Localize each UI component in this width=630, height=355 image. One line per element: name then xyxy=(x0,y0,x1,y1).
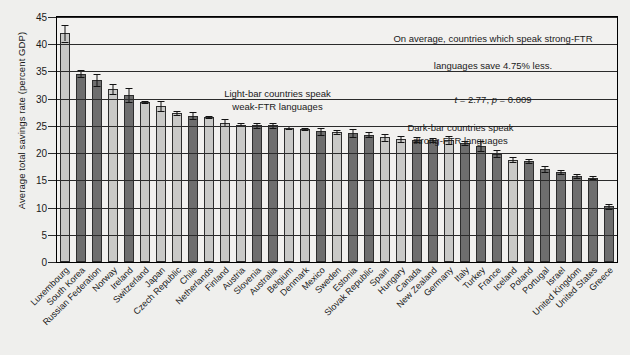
bar-group xyxy=(204,17,215,262)
error-bar-cap-lower xyxy=(93,86,100,87)
error-bar-cap-lower xyxy=(557,174,564,175)
bar-group xyxy=(124,17,135,262)
error-bar-cap-lower xyxy=(493,157,500,158)
stat-line-1: On average, countries which speak strong… xyxy=(372,32,614,46)
y-tick-mark xyxy=(48,44,56,45)
gridline xyxy=(57,180,617,181)
y-tick-mark xyxy=(48,99,56,100)
y-tick-label: 15 xyxy=(23,175,47,186)
y-tick-label: 40 xyxy=(23,39,47,50)
error-bar-cap-upper xyxy=(93,74,100,75)
error-bar-cap-upper xyxy=(493,150,500,151)
error-bar-cap-upper xyxy=(61,25,68,26)
error-bar-cap-lower xyxy=(317,135,324,136)
y-tick-label: 5 xyxy=(23,229,47,240)
error-bar-cap-lower xyxy=(173,115,180,116)
error-bar-cap-upper xyxy=(365,132,372,133)
error-bar-cap-upper xyxy=(221,119,228,120)
bar-group xyxy=(236,17,247,262)
error-bar-cap-lower xyxy=(157,111,164,112)
bar-group xyxy=(172,17,183,262)
error-bar-cap-lower xyxy=(573,178,580,179)
bar-group xyxy=(92,17,103,262)
bar xyxy=(156,106,167,262)
error-bar-cap-lower xyxy=(605,209,612,210)
error-bar-cap-upper xyxy=(349,129,356,130)
y-tick-mark xyxy=(48,235,56,236)
error-bar-line xyxy=(112,84,113,94)
error-bar-cap-upper xyxy=(589,176,596,177)
error-bar-cap-lower xyxy=(541,172,548,173)
bar-group xyxy=(252,17,263,262)
stat-line-2: languages save 4.75% less. xyxy=(372,59,614,73)
bar-group xyxy=(268,17,279,262)
error-bar-cap-lower xyxy=(525,163,532,164)
annotation-statistics: On average, countries which speak strong… xyxy=(372,18,614,120)
error-bar-cap-lower xyxy=(269,128,276,129)
error-bar-cap-lower xyxy=(109,94,116,95)
bar xyxy=(76,74,87,262)
error-bar-cap-lower xyxy=(141,103,148,104)
bar-group xyxy=(316,17,327,262)
error-bar-line xyxy=(64,25,65,41)
bar-group xyxy=(76,17,87,262)
error-bar-cap-lower xyxy=(349,137,356,138)
error-bar-line xyxy=(352,129,353,137)
p-value-value: = 0.009 xyxy=(497,94,532,105)
error-bar-cap-lower xyxy=(301,130,308,131)
gridline xyxy=(57,208,617,209)
y-tick-mark xyxy=(48,126,56,127)
error-bar-cap-upper xyxy=(301,128,308,129)
y-tick-mark xyxy=(48,180,56,181)
bar-group xyxy=(108,17,119,262)
error-bar-cap-upper xyxy=(525,159,532,160)
error-bar-cap-upper xyxy=(109,84,116,85)
error-bar-cap-upper xyxy=(253,123,260,124)
bar xyxy=(252,125,263,262)
bar xyxy=(188,116,199,262)
y-tick-label: 20 xyxy=(23,148,47,159)
annotation-dark-bars: Dark-bar countries speak strong-FTR lang… xyxy=(373,121,548,147)
error-bar-cap-lower xyxy=(285,129,292,130)
error-bar-cap-upper xyxy=(541,166,548,167)
bar-group xyxy=(300,17,311,262)
y-tick-mark xyxy=(48,208,56,209)
error-bar-cap-upper xyxy=(557,170,564,171)
error-bar-cap-lower xyxy=(189,119,196,120)
bar-group xyxy=(60,17,71,262)
bar-group xyxy=(284,17,295,262)
figure: Average total savings rate (percent GDP)… xyxy=(0,0,630,355)
gridline xyxy=(57,153,617,154)
error-bar-cap-upper xyxy=(141,101,148,102)
bar xyxy=(300,129,311,262)
gridline xyxy=(57,235,617,236)
y-tick-label: 45 xyxy=(23,12,47,23)
y-tick-label: 0 xyxy=(23,257,47,268)
error-bar-line xyxy=(96,74,97,86)
error-bar-cap-upper xyxy=(269,123,276,124)
y-tick-label: 30 xyxy=(23,93,47,104)
error-bar-cap-lower xyxy=(205,118,212,119)
error-bar-cap-upper xyxy=(509,157,516,158)
bar-group xyxy=(348,17,359,262)
error-bar-cap-upper xyxy=(573,174,580,175)
annotation-light-bars: Light-bar countries speak weak-FTR langu… xyxy=(185,87,370,113)
error-bar-cap-lower xyxy=(77,77,84,78)
error-bar-cap-lower xyxy=(365,137,372,138)
bar xyxy=(268,125,279,262)
y-tick-mark xyxy=(48,71,56,72)
t-statistic-value: = 2.77, xyxy=(457,94,492,105)
y-tick-mark xyxy=(48,17,56,18)
error-bar-cap-lower xyxy=(477,151,484,152)
error-bar-line xyxy=(128,88,129,102)
bar xyxy=(60,33,71,262)
error-bar-cap-upper xyxy=(317,128,324,129)
error-bar-cap-upper xyxy=(157,101,164,102)
bar xyxy=(220,123,231,262)
y-tick-label: 10 xyxy=(23,202,47,213)
error-bar-cap-upper xyxy=(333,130,340,131)
bar-group xyxy=(188,17,199,262)
error-bar-cap-lower xyxy=(509,162,516,163)
error-bar-cap-upper xyxy=(237,123,244,124)
error-bar-cap-lower xyxy=(253,128,260,129)
